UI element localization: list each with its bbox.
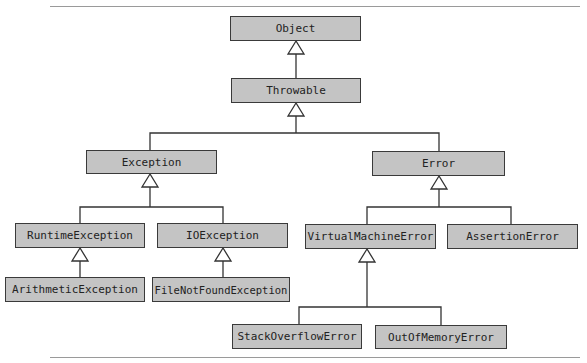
inheritance-arrow-icon (359, 249, 375, 262)
inheritance-arrow-icon (288, 103, 304, 116)
class-node-io-exception: IOException (157, 223, 288, 248)
class-node-throwable: Throwable (231, 78, 361, 103)
class-node-runtime-exception: RuntimeException (15, 223, 145, 248)
inheritance-arrow-icon (142, 174, 158, 187)
inheritance-arrow-icon (431, 176, 447, 189)
class-node-arithmetic-exception: ArithmeticException (5, 277, 145, 302)
class-node-stack-overflow-error: StackOverflowError (232, 324, 362, 349)
class-node-file-not-found-exception: FileNotFoundException (152, 277, 290, 302)
class-node-exception: Exception (86, 150, 217, 174)
class-node-out-of-memory-error: OutOfMemoryError (375, 325, 507, 349)
inheritance-arrow-icon (72, 248, 88, 261)
inheritance-arrow-icon (288, 41, 304, 54)
class-node-assertion-error: AssertionError (447, 224, 578, 249)
class-node-error: Error (372, 151, 505, 176)
class-node-virtual-machine-error: VirtualMachineError (305, 224, 436, 249)
class-node-object: Object (230, 16, 361, 41)
connector-lines (0, 0, 587, 363)
inheritance-arrow-icon (215, 248, 231, 261)
